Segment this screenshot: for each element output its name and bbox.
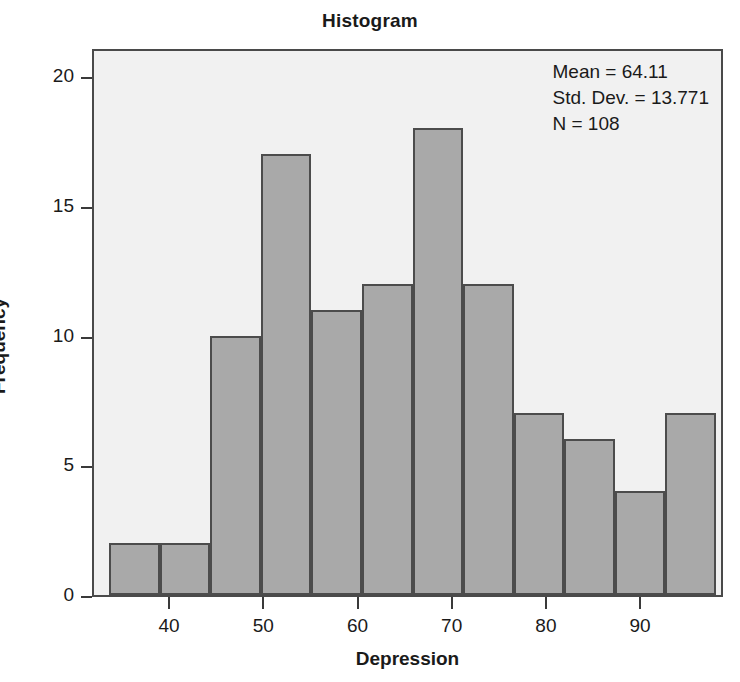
x-tick-label-50: 50 <box>233 615 293 637</box>
y-tick-label-0: 0 <box>63 584 74 606</box>
x-tick-mark-40 <box>168 597 170 609</box>
y-tick-mark-10 <box>81 337 92 339</box>
table-row <box>109 543 160 595</box>
x-tick-label-60: 60 <box>328 615 388 637</box>
y-tick-mark-5 <box>81 466 92 468</box>
table-row <box>261 154 312 595</box>
table-row <box>463 284 514 595</box>
x-tick-mark-80 <box>545 597 547 609</box>
y-axis-label: Frequency <box>0 246 10 446</box>
std-dev-value: Std. Dev. = 13.771 <box>553 85 710 111</box>
x-tick-label-70: 70 <box>422 615 482 637</box>
sample-size-value: N = 108 <box>553 111 710 137</box>
y-tick-label-5: 5 <box>63 454 74 476</box>
x-tick-mark-60 <box>357 597 359 609</box>
x-axis-label: Depression <box>92 648 723 670</box>
y-tick-label-15: 15 <box>53 195 74 217</box>
x-tick-label-90: 90 <box>610 615 670 637</box>
x-tick-mark-50 <box>262 597 264 609</box>
y-tick-mark-0 <box>81 596 92 598</box>
table-row <box>665 413 716 595</box>
y-tick-label-20: 20 <box>53 65 74 87</box>
x-tick-label-80: 80 <box>516 615 576 637</box>
table-row <box>413 128 464 595</box>
table-row <box>615 491 666 595</box>
histogram-figure: Histogram Frequency 0 5 10 15 20 <box>0 0 740 682</box>
stats-annotation: Mean = 64.11 Std. Dev. = 13.771 N = 108 <box>553 59 710 137</box>
y-tick-mark-15 <box>81 207 92 209</box>
x-tick-mark-70 <box>451 597 453 609</box>
y-tick-mark-20 <box>81 77 92 79</box>
y-tick-label-10: 10 <box>53 325 74 347</box>
table-row <box>311 310 362 595</box>
mean-value: Mean = 64.11 <box>553 59 710 85</box>
x-tick-mark-90 <box>639 597 641 609</box>
x-tick-label-40: 40 <box>139 615 199 637</box>
page-title: Histogram <box>0 10 740 32</box>
table-row <box>210 336 261 596</box>
plot-area: Mean = 64.11 Std. Dev. = 13.771 N = 108 <box>92 49 723 597</box>
table-row <box>362 284 413 595</box>
table-row <box>564 439 615 595</box>
table-row <box>160 543 211 595</box>
table-row <box>514 413 565 595</box>
